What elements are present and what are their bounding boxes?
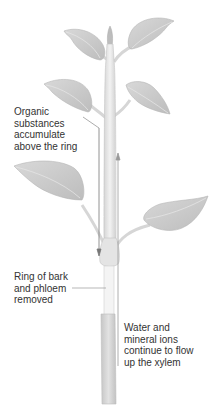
label-line: removed bbox=[14, 294, 68, 306]
leader-line-organic bbox=[83, 117, 99, 128]
label-line: Ring of bark bbox=[14, 271, 68, 283]
label-line: up the xylem bbox=[124, 357, 194, 369]
upper-stem bbox=[104, 44, 116, 240]
label-line: continue to flow bbox=[124, 345, 194, 357]
label-water-xylem: Water and mineral ions continue to flow … bbox=[124, 322, 194, 368]
lower-stem bbox=[101, 314, 116, 404]
leaf-upper-right bbox=[128, 18, 174, 49]
label-ring-removed: Ring of bark and phloem removed bbox=[14, 271, 68, 306]
swelling-above-ring bbox=[100, 238, 120, 267]
leaf-lower-left bbox=[14, 161, 84, 200]
label-line: Water and bbox=[124, 322, 194, 334]
label-organic-substances: Organic substances accumulate above the … bbox=[14, 106, 77, 152]
plant-ringing-diagram: Organic substances accumulate above the … bbox=[0, 0, 220, 414]
label-line: substances bbox=[14, 118, 77, 130]
label-line: above the ring bbox=[14, 141, 77, 153]
leaf-lower-right bbox=[144, 196, 208, 230]
ringed-section bbox=[104, 266, 114, 316]
label-line: Organic bbox=[14, 106, 77, 118]
label-line: and phloem bbox=[14, 283, 68, 295]
label-line: mineral ions bbox=[124, 334, 194, 346]
leaf-mid-right bbox=[126, 82, 170, 114]
label-line: accumulate bbox=[14, 129, 77, 141]
terminal-bud bbox=[107, 26, 112, 46]
